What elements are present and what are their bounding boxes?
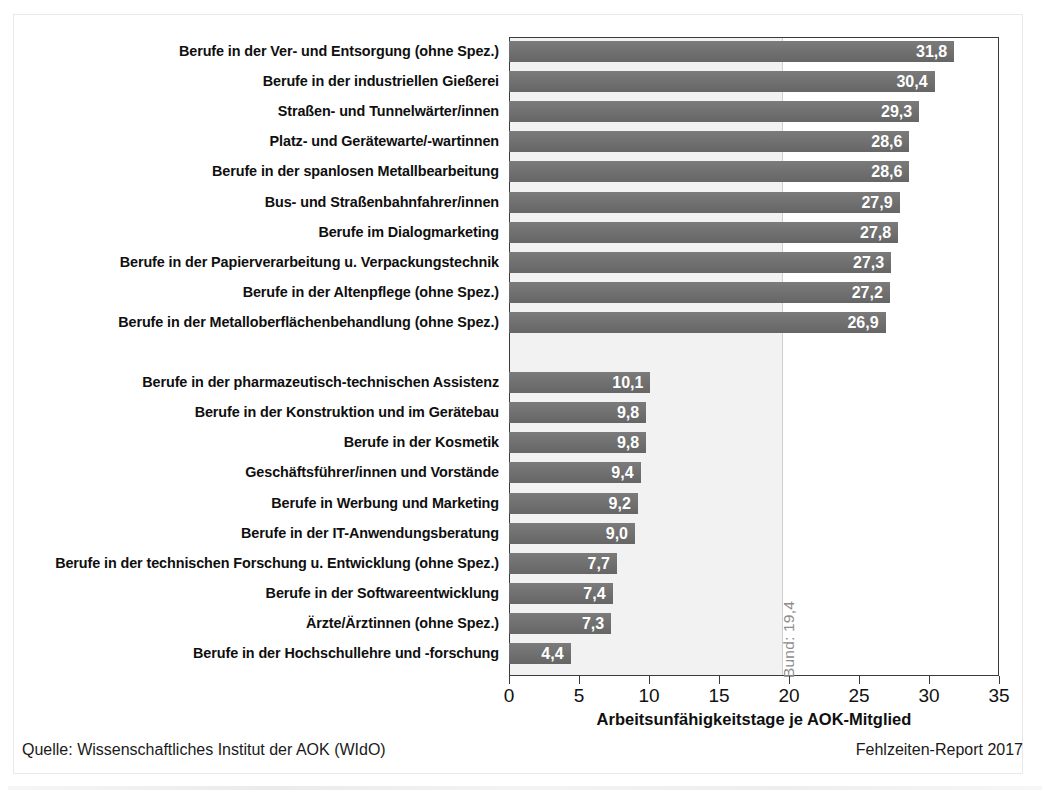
bar-value-label: 10,1 (509, 372, 650, 393)
category-label: Berufe in der industriellen Gießerei (263, 71, 499, 92)
reference-line-label: Bund: 19,4 (780, 601, 798, 678)
bar-chart: Bund: 19,4 31,8Berufe in der Ver- und En… (0, 0, 1050, 805)
x-axis-tick-label: 15 (699, 685, 739, 707)
category-label: Berufe in der Papierverarbeitung u. Verp… (120, 252, 499, 273)
x-axis-tick (579, 676, 580, 684)
bar-value-label: 27,3 (509, 252, 891, 273)
category-label: Berufe in der Metalloberflächenbehandlun… (118, 312, 499, 333)
bar-value-label: 27,9 (509, 192, 900, 213)
x-axis-tick (999, 676, 1000, 684)
footer-source: Quelle: Wissenschaftliches Institut der … (22, 741, 386, 759)
bar-value-label: 9,0 (509, 523, 635, 544)
x-axis-tick-label: 0 (489, 685, 529, 707)
bar-value-label: 7,7 (509, 553, 617, 574)
category-label: Berufe im Dialogmarketing (318, 222, 499, 243)
bar-value-label: 9,4 (509, 462, 641, 483)
bar-value-label: 27,2 (509, 282, 890, 303)
x-axis-tick-label: 25 (839, 685, 879, 707)
bar-value-label: 9,8 (509, 402, 646, 423)
x-axis-tick-label: 30 (909, 685, 949, 707)
x-axis-tick (789, 676, 790, 684)
category-label: Berufe in der Ver- und Entsorgung (ohne … (179, 41, 499, 62)
category-label: Berufe in Werbung und Marketing (271, 493, 499, 514)
x-axis-tick (649, 676, 650, 684)
bar-value-label: 29,3 (509, 101, 919, 122)
bar-value-label: 4,4 (509, 643, 571, 664)
category-label: Geschäftsführer/innen und Vorstände (245, 462, 499, 483)
category-label: Berufe in der IT-Anwendungsberatung (241, 523, 499, 544)
bar-value-label: 28,6 (509, 161, 909, 182)
x-axis-title: Arbeitsunfähigkeitstage je AOK-Mitglied (509, 710, 999, 729)
category-label: Berufe in der pharmazeutisch-technischen… (142, 372, 499, 393)
x-axis-tick-label: 10 (629, 685, 669, 707)
category-label: Berufe in der spanlosen Metallbearbeitun… (212, 161, 499, 182)
x-axis-tick (719, 676, 720, 684)
category-label: Berufe in der Konstruktion und im Geräte… (195, 402, 499, 423)
bar-value-label: 9,2 (509, 493, 638, 514)
bar-value-label: 9,8 (509, 432, 646, 453)
x-axis-tick (859, 676, 860, 684)
x-axis-tick (509, 676, 510, 684)
bar-value-label: 26,9 (509, 312, 886, 333)
category-label: Ärzte/Ärztinnen (ohne Spez.) (306, 613, 499, 634)
category-label: Straßen- und Tunnelwärter/innen (278, 101, 499, 122)
category-label: Berufe in der Hochschullehre und -forsch… (193, 643, 499, 664)
bar-value-label: 30,4 (509, 71, 935, 92)
category-label: Berufe in der technischen Forschung u. E… (55, 553, 499, 574)
bar-value-label: 31,8 (509, 41, 954, 62)
category-label: Platz- und Gerätewarte/-wartinnen (270, 131, 499, 152)
bar-value-label: 27,8 (509, 222, 898, 243)
x-axis-tick-label: 5 (559, 685, 599, 707)
category-label: Berufe in der Kosmetik (344, 432, 499, 453)
category-label: Berufe in der Softwareentwicklung (266, 583, 499, 604)
category-label: Berufe in der Altenpflege (ohne Spez.) (243, 282, 499, 303)
bar-value-label: 28,6 (509, 131, 909, 152)
category-label: Bus- und Straßenbahnfahrer/innen (265, 192, 499, 213)
x-axis-tick-label: 20 (769, 685, 809, 707)
x-axis-tick (929, 676, 930, 684)
x-axis-tick-label: 35 (979, 685, 1019, 707)
footer-report: Fehlzeiten-Report 2017 (856, 741, 1023, 759)
bar-value-label: 7,4 (509, 583, 613, 604)
bar-value-label: 7,3 (509, 613, 611, 634)
